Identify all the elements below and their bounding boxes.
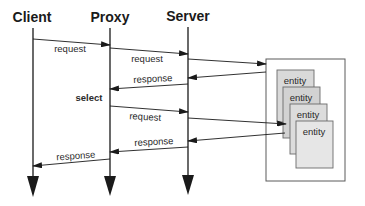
message-label: response (133, 72, 173, 85)
message-proxy-to-server-request-2: request (110, 106, 188, 123)
lifeline-arrowhead-icon (104, 176, 116, 196)
message-label: response (134, 135, 174, 148)
message-store-to-server (188, 72, 266, 78)
select-annotation: select (76, 92, 104, 103)
sequence-diagram: Client Proxy Server entity entity entity… (0, 0, 365, 206)
message-label: request (131, 53, 163, 64)
message-server-to-proxy-response-2: response (110, 135, 188, 152)
entity-label: entity (297, 109, 320, 120)
message-proxy-to-client-response: response (33, 149, 110, 166)
message-server-to-proxy-response: response (110, 72, 188, 89)
actor-server-label: Server (166, 8, 210, 24)
lifeline-server (182, 27, 194, 195)
lifeline-client (27, 28, 39, 197)
message-proxy-to-server-request: request (110, 48, 188, 64)
lifeline-arrowhead-icon (27, 176, 39, 197)
message-server-to-store (188, 59, 266, 64)
entity-label: entity (303, 126, 326, 137)
message-label: request (54, 43, 86, 54)
actor-proxy-label: Proxy (91, 9, 130, 25)
lifeline-arrowhead-icon (182, 175, 194, 195)
entity-label: entity (284, 75, 307, 86)
message-label: response (56, 149, 96, 163)
entity-label: entity (290, 92, 313, 103)
lifeline-proxy (104, 28, 116, 196)
actor-client-label: Client (13, 9, 52, 25)
message-label: request (129, 110, 162, 123)
message-client-to-proxy-request: request (33, 39, 110, 54)
